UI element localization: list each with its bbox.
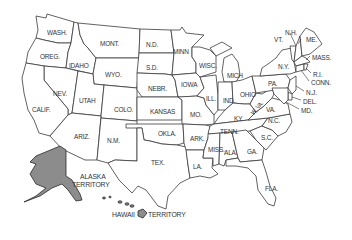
state-colo [101,85,137,121]
label-miss: MISS. [208,146,225,153]
label-nj: N.J. [306,89,317,96]
label-okla: OKLA. [158,130,176,137]
label-nh: N.H. [285,29,297,36]
label-conn: CONN. [311,79,331,86]
label-tex: TEX. [151,159,165,166]
label-utah: UTAH [79,97,95,104]
label-colo: COLO. [114,106,133,113]
label-md: MD. [301,107,312,114]
label-ariz: ARIZ. [74,133,90,140]
label-mont: MONT. [100,40,119,47]
label-pa: PA. [268,80,277,87]
label-hawaii: HAWAII [112,211,135,219]
label-wisc: WISC. [199,62,217,69]
label-nebr: NEBR. [148,85,167,92]
label-fla: FLA. [265,185,278,192]
label-tenn: TENN. [220,128,239,135]
label-iowa: IOWA [181,81,197,88]
label-mo: MO. [190,111,202,118]
label-ohio: OHIO [240,91,256,98]
label-vt: VT. [274,36,283,43]
label-sc: S.C. [261,134,273,141]
label-nc: N.C. [268,117,280,124]
label-ala: ALA. [224,149,237,156]
label-sd: S.D. [146,64,158,71]
label-ill: ILL. [206,95,216,102]
label-ny: N.Y. [278,63,289,70]
label-del: DEL. [303,98,317,105]
label-nd: N.D. [146,41,158,48]
label-ark: ARK. [190,135,204,142]
label-calif: CALIF. [32,106,50,113]
label-minn: MINN [173,48,189,55]
label-nm: N.M. [107,137,120,144]
label-ky: KY. [234,115,243,122]
label-ind: IND. [223,97,235,104]
label-wash: WASH. [47,29,67,36]
label-va: VA. [266,106,275,113]
state-fla [226,158,276,206]
label-mich: MICH [227,72,243,79]
label-la: LA. [193,163,202,170]
label-hawaii-territory: TERRITORY [148,211,186,219]
label-idaho: IDAHO [69,62,89,69]
label-mass: MASS. [312,54,331,61]
label-kansas: KANSAS [150,108,175,115]
label-wyo: WYO. [105,71,122,78]
label-alaska-territory: TERRITORY [72,181,110,189]
label-me: ME. [306,36,317,43]
label-nev: NEV. [53,90,67,97]
label-oreg: OREG. [40,53,60,60]
label-ga: GA. [247,148,258,155]
